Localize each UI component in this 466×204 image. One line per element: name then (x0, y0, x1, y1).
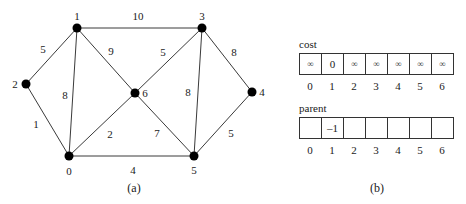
vertex-2 (22, 80, 31, 89)
parent-index-5: 5 (409, 144, 431, 156)
edge-weight-0-5: 4 (130, 165, 136, 176)
edge-1-6 (77, 28, 135, 93)
parent-index-1: 1 (321, 144, 343, 156)
edge-6-3 (135, 28, 202, 93)
cost-cell-4: ∞ (388, 54, 410, 74)
cost-array: ∞0∞∞∞∞∞ (299, 53, 454, 75)
vertex-6 (131, 89, 140, 98)
cost-cell-6: ∞ (432, 54, 453, 74)
edge-6-0 (69, 93, 135, 156)
parent-array-title: parent (299, 103, 326, 114)
edge-weight-6-3: 5 (160, 47, 166, 58)
vertex-label-4: 4 (259, 87, 265, 98)
vertex-label-3: 3 (199, 11, 205, 22)
cost-cell-1: 0 (322, 54, 344, 74)
cost-index-5: 5 (409, 80, 431, 92)
graph-nodes (22, 24, 257, 161)
edge-3-5 (194, 28, 202, 156)
cost-index-0: 0 (299, 80, 321, 92)
edge-weight-3-5: 8 (185, 87, 191, 98)
vertex-4 (248, 88, 257, 97)
parent-index-3: 3 (365, 144, 387, 156)
parent-cell-5 (410, 118, 432, 138)
edge-6-5 (135, 93, 194, 156)
cost-cell-0: ∞ (300, 54, 322, 74)
edge-weight-1-2: 5 (40, 44, 46, 55)
vertex-label-1: 1 (74, 11, 80, 22)
cost-cell-2: ∞ (344, 54, 366, 74)
cost-index-3: 3 (365, 80, 387, 92)
vertex-3 (198, 24, 207, 33)
cost-cell-5: ∞ (410, 54, 432, 74)
parent-cell-6 (432, 118, 453, 138)
figure-b-caption: (b) (370, 182, 384, 194)
parent-index-2: 2 (343, 144, 365, 156)
vertex-label-0: 0 (66, 166, 72, 177)
vertex-label-6: 6 (142, 88, 148, 99)
parent-array-indices: 0123456 (299, 144, 453, 156)
vertex-label-2: 2 (12, 79, 18, 90)
edge-weight-1-6: 9 (108, 46, 114, 57)
cost-index-6: 6 (431, 80, 453, 92)
edge-weight-4-5: 5 (228, 128, 234, 139)
parent-index-0: 0 (299, 144, 321, 156)
parent-cell-4 (388, 118, 410, 138)
edge-weight-6-0: 2 (107, 129, 113, 140)
edge-weight-6-5: 7 (154, 128, 160, 139)
cost-index-4: 4 (387, 80, 409, 92)
parent-cell-2 (344, 118, 366, 138)
edge-weight-3-4: 8 (231, 47, 237, 58)
parent-index-6: 6 (431, 144, 453, 156)
vertex-1 (73, 24, 82, 33)
parent-cell-3 (366, 118, 388, 138)
cost-index-1: 1 (321, 80, 343, 92)
edge-weight-1-0: 8 (62, 90, 68, 101)
vertex-5 (190, 152, 199, 161)
cost-array-indices: 0123456 (299, 80, 453, 92)
cost-index-2: 2 (343, 80, 365, 92)
edge-1-2 (26, 28, 77, 84)
parent-cell-0 (300, 118, 322, 138)
parent-index-4: 4 (387, 144, 409, 156)
cost-cell-3: ∞ (366, 54, 388, 74)
edge-weight-2-0: 1 (33, 119, 39, 130)
edge-4-5 (194, 92, 252, 156)
vertex-0 (65, 152, 74, 161)
edge-3-4 (202, 28, 252, 92)
edge-weight-1-3: 10 (133, 11, 144, 22)
cost-array-title: cost (299, 39, 317, 50)
figure-a-caption: (a) (127, 182, 140, 194)
vertex-label-5: 5 (191, 165, 197, 176)
parent-cell-1: –1 (322, 118, 344, 138)
edge-1-0 (69, 28, 77, 156)
parent-array: –1 (299, 117, 454, 139)
weighted-graph (0, 0, 290, 204)
